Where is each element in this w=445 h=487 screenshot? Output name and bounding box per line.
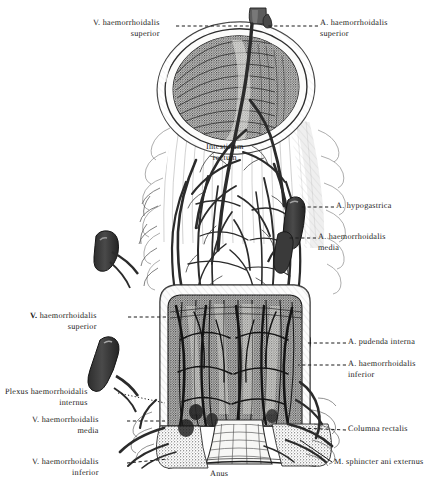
label-a-haem-media: A. haemorrhoidalis media	[318, 232, 386, 253]
mucosal-window	[160, 285, 310, 430]
label-v-haem-sup-mid: V. haemorrhoidalissuperior	[30, 311, 97, 332]
label-a-hypogastrica: A. hypogastrica	[336, 201, 392, 212]
label-a-pudenda-int: A. pudenda interna	[348, 337, 415, 348]
label-a-haem-inf: A. haemorrhoidalis inferior	[348, 359, 416, 380]
label-m-sphincter: M. sphincter ani externus	[334, 457, 423, 468]
label-columna-rectalis: Columna rectalis	[348, 424, 408, 435]
label-a-haem-sup: A. haemorrhoidalis superior	[320, 18, 388, 39]
label-plexus-haem-int: Plexus haemorrhoidalis internus	[5, 387, 88, 408]
label-v-haem-media: V. haemorrhoidalis media	[32, 415, 99, 436]
label-anus: Anus	[210, 469, 228, 480]
label-v-haem-sup-top: V. haemorrhoidalis superior	[93, 18, 160, 39]
label-intestinum-rectum: Intestinum rectum	[206, 142, 244, 163]
label-v-haem-inf: V. haemorrhoidalis inferior	[32, 457, 99, 478]
